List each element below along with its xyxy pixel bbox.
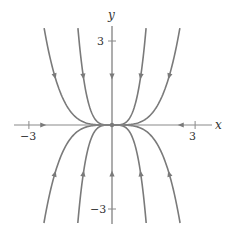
x-tick-label-3: 3 (189, 130, 196, 143)
x-tick-label-neg3: −3 (20, 130, 36, 143)
x-axis-label: x (215, 118, 222, 132)
y-tick-label-neg3: −3 (90, 203, 106, 216)
direction-arrow-icon (40, 122, 46, 127)
phase-portrait: x y −3 3 3 −3 (0, 0, 230, 240)
y-tick-label-3: 3 (97, 35, 104, 48)
y-axis-label: y (107, 8, 115, 22)
equilibrium-point (110, 123, 114, 127)
direction-arrow-icon (109, 171, 114, 177)
direction-arrow-icon (178, 122, 184, 127)
direction-arrow-icon (109, 74, 114, 80)
